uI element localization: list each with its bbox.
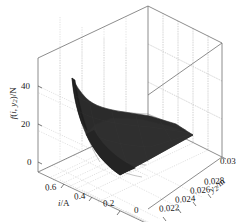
z-axis-title-unit: /N bbox=[8, 87, 18, 96]
z-axis-title-sym: f bbox=[8, 117, 18, 120]
xtick-label-0: 0 bbox=[134, 206, 139, 215]
ytick-label-0-024: 0.024 bbox=[175, 194, 196, 204]
ztick-label-0: 0 bbox=[27, 158, 32, 167]
surface-mesh bbox=[72, 78, 193, 177]
z-axis-title-close: ) bbox=[8, 96, 18, 99]
ztick-label-40: 40 bbox=[21, 82, 30, 91]
z-axis-title-comma: , bbox=[8, 107, 18, 112]
surface-plot-figure: 40 20 0 0.6 0.4 0.2 0 0.022 0.024 0.026 … bbox=[0, 0, 248, 222]
z-axis-title-sub: 2 bbox=[11, 99, 19, 103]
xtick-label-0-4: 0.4 bbox=[74, 192, 86, 202]
xtick-label-0-2: 0.2 bbox=[103, 199, 115, 209]
ztick-label-20: 20 bbox=[21, 120, 30, 129]
z-axis-title-sym1: i bbox=[8, 111, 18, 114]
z-axis-title: f(i, y2)/N bbox=[9, 72, 20, 134]
x-axis-title-unit: /A bbox=[61, 198, 70, 208]
ytick-label-0-03: 0.03 bbox=[220, 157, 236, 166]
z-axis-title-sym2: y bbox=[8, 103, 18, 107]
ytick-label-0-022: 0.022 bbox=[159, 203, 180, 213]
xtick-label-0-6: 0.6 bbox=[45, 183, 57, 193]
x-axis-title: i/A bbox=[58, 199, 70, 208]
z-axis-title-open: ( bbox=[8, 114, 18, 117]
